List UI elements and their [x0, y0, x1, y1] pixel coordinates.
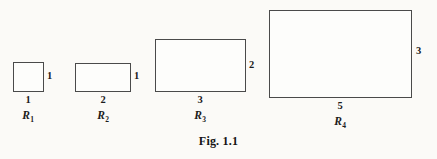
- rectangle-r3-name-label: R3: [194, 110, 205, 122]
- rectangle-r2-width-label: 2: [100, 95, 105, 106]
- figure-caption: Fig. 1.1: [0, 134, 437, 149]
- rectangle-r1-name-label: R1: [22, 110, 33, 122]
- rectangle-r1-name-letter: R: [22, 109, 30, 121]
- rectangle-r3-height-label: 2: [249, 60, 254, 71]
- rectangle-r1: [13, 62, 44, 92]
- rectangle-r1-name-subscript: 1: [30, 115, 34, 124]
- rectangle-r4: [269, 10, 412, 98]
- rectangle-r3-width-label: 3: [197, 95, 202, 106]
- rectangle-r2-name-label: R2: [97, 110, 108, 122]
- rectangle-r4-width-label: 5: [337, 101, 342, 112]
- rectangle-r4-name-label: R4: [334, 116, 345, 128]
- rectangle-r3-name-letter: R: [194, 109, 202, 121]
- rectangle-r2-name-letter: R: [97, 109, 105, 121]
- rectangle-r4-name-subscript: 4: [342, 121, 346, 130]
- rectangle-r1-height-label: 1: [47, 71, 52, 82]
- rectangle-r1-width-label: 1: [25, 95, 30, 106]
- rectangle-r2-height-label: 1: [134, 71, 139, 82]
- rectangle-r4-height-label: 3: [416, 46, 421, 57]
- rectangle-r2-name-subscript: 2: [105, 115, 109, 124]
- rectangle-r3-name-subscript: 3: [202, 115, 206, 124]
- rectangle-r3: [155, 39, 246, 92]
- figure-container: 1 1 R1 2 1 R2 3 2 R3 5 3 R4 Fig. 1.1: [0, 0, 437, 159]
- rectangle-r4-name-letter: R: [334, 115, 342, 127]
- rectangle-r2: [75, 63, 131, 92]
